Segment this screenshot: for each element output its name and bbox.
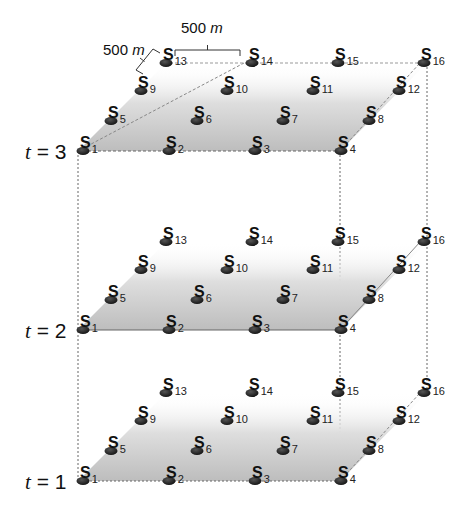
site-letter: S (249, 225, 260, 242)
site-index: 4 (350, 143, 356, 155)
site-letter: S (224, 74, 235, 91)
time-equals: = (31, 319, 55, 342)
site-letter: S (310, 404, 321, 421)
depth-scale-label: 500 m (103, 41, 145, 58)
site-letter: S (108, 434, 119, 451)
site-letter: S (163, 376, 174, 393)
site-letter: S (396, 404, 407, 421)
site-index: 14 (261, 55, 273, 67)
site-index: 2 (178, 473, 184, 485)
site-index: 16 (433, 55, 445, 67)
site-letter: S (366, 104, 377, 121)
site-index: 4 (350, 322, 356, 334)
site-index: 3 (264, 322, 270, 334)
site-letter: S (310, 253, 321, 270)
site-index: 5 (120, 443, 126, 455)
horizontal-scale-label: 500 m (181, 19, 223, 36)
site-letter: S (194, 283, 205, 300)
site-s12: S12 (393, 404, 420, 425)
site-letter: S (108, 104, 119, 121)
space-time-grid-diagram: t = 3S1S2S3S4S5S6S7S8S9S10S11S12S13S14S1… (0, 0, 468, 512)
site-letter: S (252, 134, 263, 151)
site-letter: S (421, 225, 432, 242)
site-letter: S (166, 313, 177, 330)
site-letter: S (280, 434, 291, 451)
time-value: 2 (55, 319, 67, 342)
site-letter: S (252, 464, 263, 481)
site-letter: S (338, 313, 349, 330)
layer-label: t = 1 (25, 470, 66, 494)
site-letter: S (421, 376, 432, 393)
site-s12: S12 (393, 74, 420, 95)
site-index: 11 (322, 262, 333, 274)
site-letter: S (194, 434, 205, 451)
site-letter: S (338, 464, 349, 481)
site-letter: S (166, 134, 177, 151)
site-letter: S (396, 253, 407, 270)
site-index: 5 (120, 113, 126, 125)
site-index: 7 (292, 292, 298, 304)
site-letter: S (335, 225, 346, 242)
site-index: 9 (150, 413, 156, 425)
site-s16: S16 (418, 46, 445, 67)
site-letter: S (249, 376, 260, 393)
site-index: 15 (347, 55, 359, 67)
site-s16: S16 (418, 225, 445, 246)
site-letter: S (280, 283, 291, 300)
site-index: 3 (264, 143, 270, 155)
site-index: 6 (206, 443, 212, 455)
site-index: 12 (408, 83, 420, 95)
site-index: 2 (178, 322, 184, 334)
site-index: 16 (433, 385, 445, 397)
site-index: 6 (206, 113, 212, 125)
layer-t-1: t = 1S1S2S3S4S5S6S7S8S9S10S11S12S13S14S1… (25, 376, 445, 494)
layer-label: t = 3 (25, 140, 66, 164)
site-index: 16 (433, 234, 445, 246)
site-index: 15 (347, 385, 359, 397)
time-equals: = (31, 470, 55, 493)
site-letter: S (163, 46, 174, 63)
site-letter: S (396, 74, 407, 91)
site-index: 14 (261, 385, 273, 397)
site-index: 8 (378, 113, 384, 125)
site-index: 10 (236, 262, 248, 274)
site-index: 11 (322, 83, 333, 95)
site-index: 15 (347, 234, 359, 246)
site-letter: S (80, 313, 91, 330)
site-index: 9 (150, 83, 156, 95)
site-index: 13 (175, 385, 187, 397)
site-letter: S (138, 253, 149, 270)
site-letter: S (335, 46, 346, 63)
site-letter: S (166, 464, 177, 481)
site-index: 3 (264, 473, 270, 485)
site-letter: S (366, 434, 377, 451)
site-index: 1 (92, 473, 98, 485)
site-letter: S (280, 104, 291, 121)
site-index: 10 (236, 413, 248, 425)
site-index: 1 (92, 322, 98, 334)
time-layers: t = 3S1S2S3S4S5S6S7S8S9S10S11S12S13S14S1… (25, 46, 445, 494)
layer-label: t = 2 (25, 319, 66, 343)
site-index: 1 (92, 143, 98, 155)
site-letter: S (224, 253, 235, 270)
site-letter: S (421, 46, 432, 63)
site-letter: S (338, 134, 349, 151)
site-s12: S12 (393, 253, 420, 274)
site-letter: S (138, 404, 149, 421)
site-letter: S (163, 225, 174, 242)
site-index: 10 (236, 83, 248, 95)
site-index: 2 (178, 143, 184, 155)
layer-t-2: t = 2S1S2S3S4S5S6S7S8S9S10S11S12S13S14S1… (25, 225, 445, 343)
site-letter: S (224, 404, 235, 421)
site-index: 13 (175, 55, 187, 67)
site-index: 11 (322, 413, 333, 425)
site-letter: S (108, 283, 119, 300)
site-index: 13 (175, 234, 187, 246)
site-letter: S (366, 283, 377, 300)
site-index: 12 (408, 413, 420, 425)
site-letter: S (310, 74, 321, 91)
time-value: 1 (55, 470, 67, 493)
site-index: 14 (261, 234, 273, 246)
site-letter: S (80, 464, 91, 481)
site-index: 5 (120, 292, 126, 304)
